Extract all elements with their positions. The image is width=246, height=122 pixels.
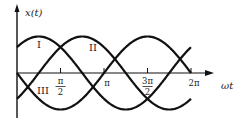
curve-label-I: I: [37, 39, 41, 50]
tick-label: 3π: [142, 76, 153, 86]
x-axis-label: ωt: [221, 80, 234, 91]
y-axis-arrow-icon: [15, 4, 20, 12]
waveform-diagram: x(t) ωt π2π3π22π I II III: [0, 0, 246, 122]
tick-label: π: [58, 76, 64, 86]
curve-label-III: III: [37, 85, 49, 96]
x-ticks: π2π3π22π: [56, 68, 200, 97]
tick-label-denominator: 2: [58, 87, 63, 97]
x-axis-arrow-icon: [205, 70, 214, 76]
tick-label: 2π: [189, 78, 200, 88]
y-axis-label: x(t): [25, 7, 43, 18]
tick-label: π: [104, 78, 110, 88]
curve-label-II: II: [89, 42, 97, 53]
